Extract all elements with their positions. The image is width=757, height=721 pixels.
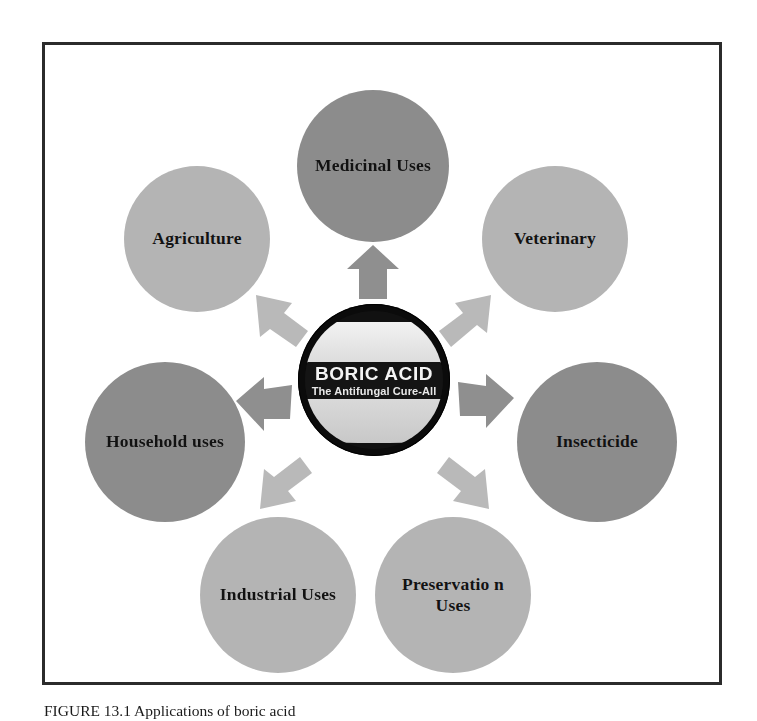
figure-caption-text: Applications of boric acid <box>134 702 295 719</box>
node-label: Veterinary <box>504 228 606 249</box>
logo-subtitle: The Antifungal Cure-All <box>312 386 437 397</box>
node-label: Household uses <box>96 431 234 452</box>
node-label: Agriculture <box>142 228 251 249</box>
logo-highlight-band-top <box>305 322 443 363</box>
center-logo-inner: BORIC ACID The Antifungal Cure-All <box>305 311 443 449</box>
arrow-right-icon <box>454 372 516 430</box>
node-preservation-uses[interactable]: Preservatio n Uses <box>375 517 531 673</box>
node-label: Preservatio n Uses <box>375 574 531 617</box>
arrow-down-right-icon <box>435 455 493 513</box>
figure-caption: FIGURE 13.1 Applications of boric acid <box>44 702 734 720</box>
node-insecticide[interactable]: Insecticide <box>517 362 677 522</box>
arrow-up-left-icon <box>252 291 310 349</box>
node-agriculture[interactable]: Agriculture <box>124 166 270 312</box>
diagram-canvas: Medicinal Uses Veterinary Insecticide Pr… <box>45 45 719 682</box>
arrow-up-right-icon <box>437 291 495 349</box>
arrow-up-icon <box>345 243 401 301</box>
center-logo-boric-acid: BORIC ACID The Antifungal Cure-All <box>298 304 450 456</box>
logo-highlight-band-bottom <box>305 399 443 443</box>
node-label: Insecticide <box>546 431 648 452</box>
node-label: Medicinal Uses <box>305 155 441 176</box>
node-veterinary[interactable]: Veterinary <box>482 166 628 312</box>
logo-title: BORIC ACID <box>315 364 433 383</box>
logo-text-band: BORIC ACID The Antifungal Cure-All <box>305 362 443 399</box>
node-industrial-uses[interactable]: Industrial Uses <box>200 517 356 673</box>
node-household-uses[interactable]: Household uses <box>85 362 245 522</box>
figure-frame: Medicinal Uses Veterinary Insecticide Pr… <box>42 42 722 685</box>
arrow-down-left-icon <box>256 455 314 513</box>
node-medicinal-uses[interactable]: Medicinal Uses <box>297 90 449 242</box>
figure-caption-label: FIGURE 13.1 <box>44 702 131 719</box>
node-label: Industrial Uses <box>210 584 346 605</box>
